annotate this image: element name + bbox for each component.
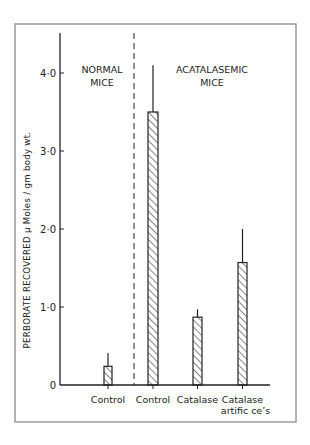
category-label: Catalase bbox=[177, 394, 218, 405]
y-tick-label: 4·0 bbox=[40, 68, 56, 79]
axes: 01·02·03·04·0PERBORATE RECOVERED μ Moles… bbox=[22, 33, 270, 391]
y-tick-label: 1·0 bbox=[40, 302, 56, 313]
y-tick-label: 2·0 bbox=[40, 224, 56, 235]
bar bbox=[193, 317, 202, 385]
y-axis-label: PERBORATE RECOVERED μ Moles / gm body wt… bbox=[22, 132, 32, 349]
category-label: Control bbox=[136, 394, 170, 405]
bar bbox=[238, 263, 247, 385]
group-label: MICE bbox=[90, 77, 114, 88]
group-label: ACATALASEMIC bbox=[176, 64, 248, 75]
y-tick-label: 3·0 bbox=[40, 146, 56, 157]
bar bbox=[148, 112, 158, 385]
category-label: artific ce’s bbox=[221, 405, 270, 416]
group-label: MICE bbox=[200, 77, 224, 88]
bar bbox=[104, 366, 112, 385]
group-label: NORMAL bbox=[81, 64, 123, 75]
category-label: Control bbox=[91, 394, 125, 405]
category-label: Catalase bbox=[222, 394, 263, 405]
y-tick-label: 0 bbox=[50, 380, 56, 391]
chart-figure: 01·02·03·04·0PERBORATE RECOVERED μ Moles… bbox=[0, 0, 310, 445]
bars bbox=[104, 65, 247, 385]
bar-chart: 01·02·03·04·0PERBORATE RECOVERED μ Moles… bbox=[0, 0, 310, 445]
